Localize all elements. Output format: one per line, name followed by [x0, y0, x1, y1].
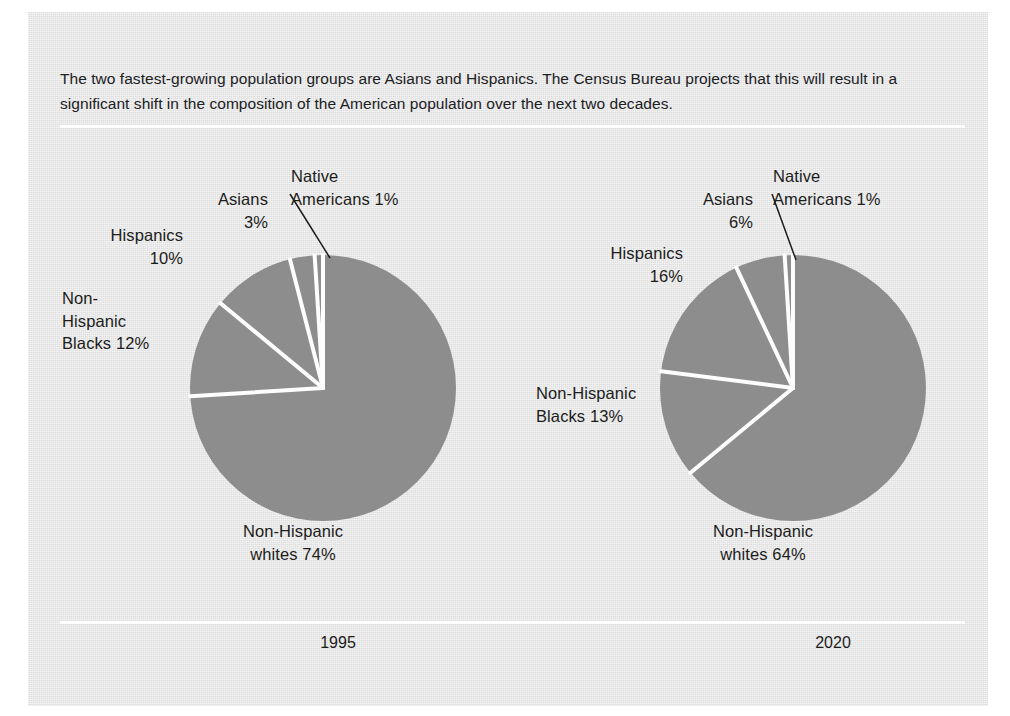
- rule-top: [60, 125, 965, 128]
- label-hispanics-1995: Hispanics 10%: [28, 224, 183, 269]
- label-whites-1995: Non-Hispanic whites 74%: [188, 520, 398, 565]
- label-asians-2020: Asians 6%: [623, 188, 753, 233]
- pie-chart-1995: [38, 132, 508, 672]
- chart-panel-2020: Asians 6% Native Americans 1% Hispanics …: [508, 132, 978, 672]
- figure-caption: The two fastest-growing population group…: [60, 66, 960, 116]
- label-blacks-1995: Non- Hispanic Blacks 12%: [62, 287, 222, 355]
- year-label-2020: 2020: [773, 634, 893, 652]
- label-whites-2020: Non-Hispanic whites 64%: [658, 520, 868, 565]
- figure-card: The two fastest-growing population group…: [28, 12, 988, 706]
- label-hispanics-2020: Hispanics 16%: [528, 242, 683, 287]
- label-blacks-2020: Non-Hispanic Blacks 13%: [536, 382, 736, 427]
- label-native-americans-1995: Native Americans 1%: [291, 165, 511, 210]
- year-label-1995: 1995: [278, 634, 398, 652]
- rule-bottom: [60, 621, 965, 624]
- label-native-americans-2020: Native Americans 1%: [773, 165, 993, 210]
- chart-panel-1995: Asians 3% Native Americans 1% Hispanics …: [38, 132, 508, 672]
